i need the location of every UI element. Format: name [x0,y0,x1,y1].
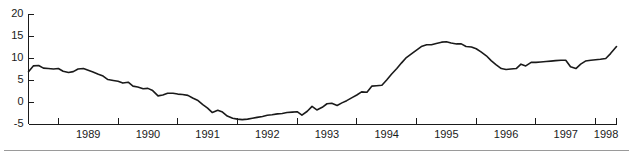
y-axis-tick-labels: -505101520 [11,7,23,129]
x-tick-label: 1992 [255,128,279,140]
x-tick-label: 1997 [554,128,578,140]
y-tick-label: 10 [11,51,23,63]
x-tick-label: 1993 [315,128,339,140]
y-tick-label: 0 [17,95,23,107]
y-tick-label: -5 [14,117,24,129]
x-axis-group: 1989199019911992199319941995199619971998 [29,118,619,140]
x-axis-tick-labels: 1989199019911992199319941995199619971998 [76,128,618,140]
x-tick-label: 1998 [594,128,618,140]
x-tick-label: 1990 [136,128,160,140]
chart-container: -505101520 19891990199119921993199419951… [0,0,633,160]
x-tick-label: 1995 [434,128,458,140]
y-tick-label: 5 [17,73,23,85]
x-tick-label: 1994 [374,128,398,140]
x-tick-label: 1989 [76,128,100,140]
y-axis-group: -505101520 [11,7,33,129]
x-axis-ticks [58,118,616,124]
data-series-line [29,42,617,120]
plot-area [29,42,617,120]
y-tick-label: 15 [11,29,23,41]
x-tick-label: 1991 [195,128,219,140]
line-chart: -505101520 19891990199119921993199419951… [0,0,633,160]
y-tick-label: 20 [11,7,23,19]
x-tick-label: 1996 [494,128,518,140]
